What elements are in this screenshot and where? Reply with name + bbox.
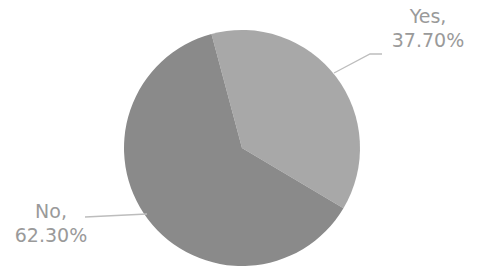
label-yes-name: Yes, xyxy=(380,4,476,28)
data-label-yes: Yes, 37.70% xyxy=(380,4,476,52)
label-no-name: No, xyxy=(6,199,96,223)
label-yes-value: 37.70% xyxy=(380,28,476,52)
label-no-value: 62.30% xyxy=(6,223,96,247)
leader-line-yes xyxy=(334,54,382,73)
pie-slices xyxy=(124,30,360,266)
data-label-no: No, 62.30% xyxy=(6,199,96,247)
